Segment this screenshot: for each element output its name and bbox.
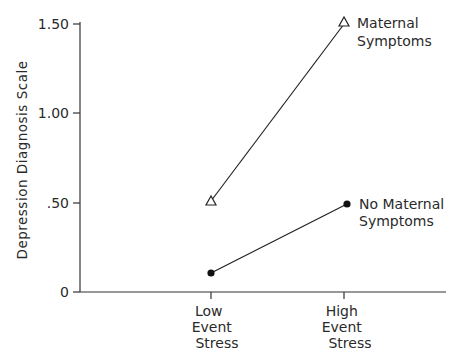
x-category-label-high: High Event Stress [322, 303, 372, 351]
series-no-maternal-symptoms: No Maternal Symptoms [207, 196, 448, 277]
x-category-label-low: Low Event Stress [192, 303, 239, 351]
filled-circle-marker [207, 269, 214, 276]
series-label-no-maternal: No Maternal Symptoms [359, 196, 449, 229]
y-tick-label: 0 [60, 284, 69, 300]
series-label-maternal: Maternal Symptoms [357, 15, 432, 49]
open-triangle-marker [206, 196, 216, 205]
series-maternal-symptoms: Maternal Symptoms [206, 15, 432, 205]
y-tick-label: 1.00 [38, 105, 69, 121]
y-tick-label: .50 [47, 195, 69, 211]
y-axis-title: Depression Diagnosis Scale [14, 61, 30, 260]
x-axis: Low Event Stress High Event Stress [80, 292, 446, 351]
y-axis: 1.50 1.00 .50 0 [38, 16, 80, 300]
y-tick-label: 1.50 [38, 16, 69, 32]
open-triangle-marker [339, 17, 349, 26]
line-chart: Depression Diagnosis Scale 1.50 1.00 .50… [0, 0, 459, 362]
filled-circle-marker [343, 200, 350, 207]
